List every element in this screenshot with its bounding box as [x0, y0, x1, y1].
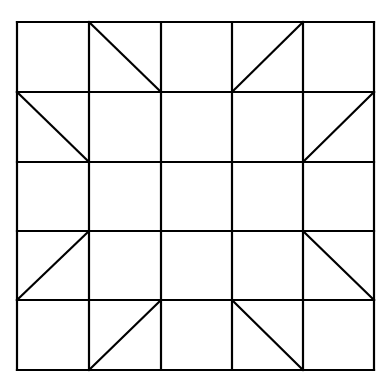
quilt-grid-diagram [0, 0, 391, 392]
diagonal-line [89, 22, 161, 92]
diagonal-lines [17, 22, 374, 370]
diagonal-line [232, 22, 303, 92]
diagonal-line [303, 231, 374, 300]
diagonal-line [89, 300, 161, 370]
diagonal-line [232, 300, 303, 370]
grid-lines [17, 22, 374, 370]
diagonal-line [17, 92, 89, 162]
diagonal-line [303, 92, 374, 162]
diagonal-line [17, 231, 89, 300]
